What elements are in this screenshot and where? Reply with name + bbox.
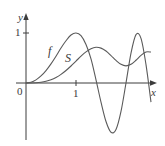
chart-canvas <box>0 0 165 146</box>
curve-s <box>26 47 151 83</box>
x-axis-label: x <box>151 87 156 98</box>
y-axis-arrow-icon <box>23 13 28 20</box>
y-tick-label-1: 1 <box>15 27 21 38</box>
x-axis-arrow-icon <box>150 80 157 85</box>
x-tick-label-1: 1 <box>73 88 79 99</box>
y-axis-label: y <box>18 12 23 23</box>
curve-f-label: f <box>48 45 51 57</box>
curve-s-label: S <box>65 52 71 64</box>
origin-label: 0 <box>17 86 23 97</box>
